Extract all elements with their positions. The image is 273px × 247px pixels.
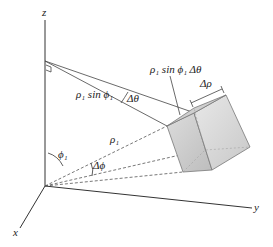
- x-axis-label: x: [12, 226, 18, 238]
- y-axis-label: y: [253, 201, 259, 213]
- y-axis: [45, 186, 252, 208]
- delta-theta-label: Δθ: [126, 92, 139, 104]
- rho-label: ρ₁: [109, 133, 119, 145]
- x-axis: [20, 186, 45, 228]
- z-axis-label: z: [41, 6, 47, 18]
- phi-label: ϕ₁: [58, 148, 68, 160]
- arc-length-label: ρ₁ sin ϕ₁ Δθ: [149, 63, 202, 75]
- angle-marks: [48, 153, 93, 176]
- rho-sin-phi-label: ρ₁ sin ϕ₁: [75, 88, 113, 100]
- arc-length-pointer: [170, 76, 180, 115]
- delta-rho-label: Δρ: [199, 77, 212, 89]
- volume-element: [167, 95, 250, 172]
- delta-phi-label: Δϕ: [92, 159, 105, 171]
- right-angle-marker: [46, 65, 51, 72]
- spherical-volume-element-diagram: z x y ρ₁ sin ϕ₁ Δθ ρ₁ sin ϕ₁ Δθ Δρ ρ₁ ϕ₁…: [0, 0, 273, 247]
